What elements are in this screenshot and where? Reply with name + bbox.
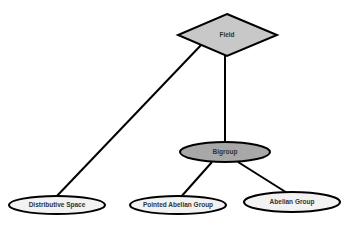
node-bigroup[interactable]: Bigroup — [180, 142, 270, 162]
distributive-space-label: Distributive Space — [29, 201, 86, 209]
diagram-canvas: Field Bigroup Distributive Space Pointed… — [0, 0, 357, 225]
field-label: Field — [219, 31, 234, 38]
edge-bigroup-pointed-abelian-group — [180, 162, 212, 198]
edge-bigroup-abelian-group — [238, 162, 292, 196]
edge-field-distributive-space — [55, 43, 203, 198]
node-field[interactable]: Field — [178, 14, 277, 56]
node-distributive-space[interactable]: Distributive Space — [9, 196, 105, 214]
node-pointed-abelian-group[interactable]: Pointed Abelian Group — [130, 196, 226, 214]
node-abelian-group[interactable]: Abelian Group — [244, 192, 340, 212]
bigroup-label: Bigroup — [213, 148, 238, 156]
pointed-abelian-group-label: Pointed Abelian Group — [143, 201, 213, 209]
abelian-group-label: Abelian Group — [270, 198, 315, 206]
